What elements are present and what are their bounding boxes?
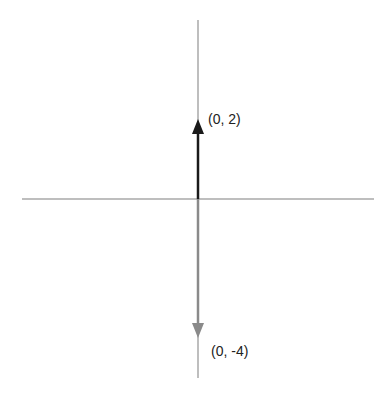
vector-diagram: (0, 2) (0, -4) — [0, 0, 387, 400]
arrowhead-up-icon — [192, 119, 204, 134]
vector-up-label: (0, 2) — [208, 111, 241, 127]
arrowhead-down-icon — [192, 323, 204, 338]
vector-down-label: (0, -4) — [211, 343, 248, 359]
vector-up — [192, 119, 204, 199]
diagram-canvas — [0, 0, 387, 400]
vector-down — [192, 199, 204, 338]
